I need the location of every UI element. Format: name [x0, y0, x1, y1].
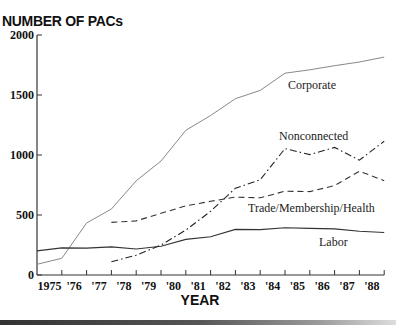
x-tick-label: '88	[364, 279, 379, 293]
y-tick-label: 1000	[10, 148, 34, 162]
x-tick-label: '79	[141, 279, 156, 293]
series-label-corporate: Corporate	[288, 78, 336, 92]
x-tick-label: '85	[290, 279, 305, 293]
x-tick-label: '81	[191, 279, 206, 293]
bottom-rule	[0, 320, 396, 325]
y-tick-label: 1500	[10, 88, 34, 102]
series-label-nonconnected: Nonconnected	[279, 129, 348, 143]
y-tick-label: 500	[16, 208, 34, 222]
x-tick-label: '86	[315, 279, 330, 293]
x-axis: 1975'76'77'78'79'80'81'82'83'84'85'86'87…	[37, 270, 384, 293]
x-axis-title: YEAR	[181, 292, 220, 308]
x-tick-label: '82	[215, 279, 230, 293]
x-tick-label: '83	[240, 279, 255, 293]
x-tick-label: '76	[67, 279, 82, 293]
series-label-labor: Labor	[319, 235, 348, 249]
x-tick-label: '87	[339, 279, 354, 293]
x-tick-label: '77	[91, 279, 106, 293]
pac-line-chart: NUMBER OF PACs 0500100015002000 1975'76'…	[0, 0, 396, 327]
x-tick-label: 1975	[37, 279, 61, 293]
x-tick-label: '80	[166, 279, 181, 293]
chart-title: NUMBER OF PACs	[2, 13, 123, 29]
x-tick-label: '84	[265, 279, 280, 293]
y-tick-label: 0	[28, 268, 34, 282]
x-tick-label: '78	[116, 279, 131, 293]
series-label-trade: Trade/Membership/Health	[248, 201, 375, 215]
y-tick-label: 2000	[10, 28, 34, 42]
y-axis: 0500100015002000	[10, 28, 42, 282]
